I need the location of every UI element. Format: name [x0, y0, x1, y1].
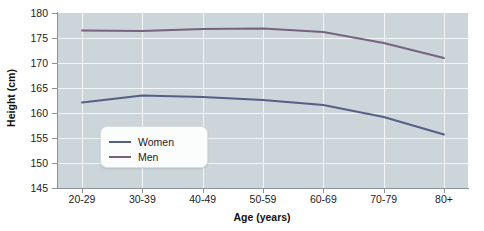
legend-item-women: Women [109, 135, 174, 149]
legend-label-men: Men [138, 151, 158, 163]
series-line-men [82, 29, 444, 59]
legend-swatch-women [109, 141, 131, 143]
legend-item-men: Men [109, 150, 158, 164]
line-chart: 145150155160165170175180 20-2930-3940-49… [0, 0, 484, 231]
series-layer [0, 0, 484, 231]
legend-swatch-men [109, 156, 131, 158]
legend-label-women: Women [138, 136, 174, 148]
chart-legend: Women Men [100, 126, 208, 168]
